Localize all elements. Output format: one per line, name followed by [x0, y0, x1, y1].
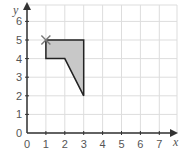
x-tick-label: 0: [24, 138, 30, 150]
y-tick-label: 3: [16, 71, 22, 83]
x-axis-label: x: [172, 135, 179, 149]
x-tick-label: 2: [62, 138, 68, 150]
grid-lines: [27, 5, 177, 133]
y-tick-label: 6: [16, 15, 22, 27]
x-tick-label: 7: [156, 138, 162, 150]
y-tick-label: 0: [16, 127, 22, 139]
y-tick-label: 5: [16, 34, 22, 46]
x-tick-labels: 01234567: [24, 138, 162, 150]
x-tick-label: 3: [81, 138, 87, 150]
y-tick-label: 4: [16, 53, 22, 65]
y-tick-labels: 0123456: [16, 15, 22, 139]
y-tick-label: 2: [16, 90, 22, 102]
y-tick-label: 1: [16, 108, 22, 120]
y-axis-label: y: [12, 3, 19, 17]
x-tick-label: 1: [43, 138, 49, 150]
x-tick-label: 5: [118, 138, 124, 150]
coordinate-grid: 01234567 0123456 x y: [0, 0, 187, 160]
x-tick-label: 6: [137, 138, 143, 150]
x-tick-label: 4: [100, 138, 106, 150]
